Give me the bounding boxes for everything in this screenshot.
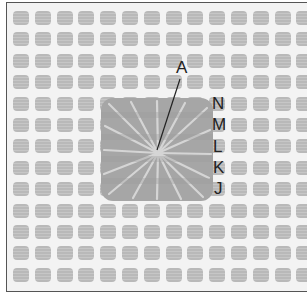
pointer-line bbox=[0, 0, 307, 300]
row-label-k: K bbox=[213, 159, 224, 176]
row-label-j: J bbox=[214, 180, 223, 197]
row-label-l: L bbox=[213, 138, 222, 155]
row-label-n: N bbox=[212, 95, 224, 112]
label-a: A bbox=[176, 59, 187, 76]
row-label-m: M bbox=[212, 116, 226, 133]
